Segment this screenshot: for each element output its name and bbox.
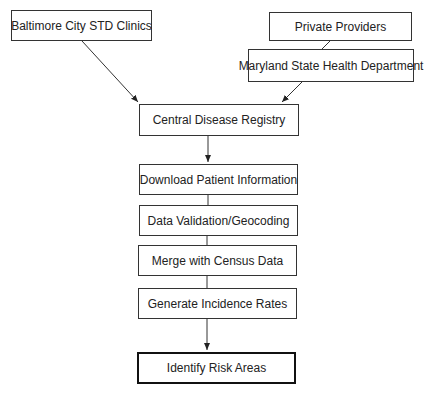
- node-label: Merge with Census Data: [152, 254, 283, 268]
- node-private-providers: Private Providers: [269, 12, 412, 41]
- node-data-validation-geocoding: Data Validation/Geocoding: [139, 205, 298, 236]
- node-label: Generate Incidence Rates: [148, 297, 287, 311]
- node-label: Private Providers: [295, 20, 386, 34]
- node-label: Download Patient Information: [140, 173, 297, 187]
- node-label: Identify Risk Areas: [167, 361, 266, 375]
- node-central-disease-registry: Central Disease Registry: [139, 104, 299, 136]
- node-baltimore-city-std-clinics: Baltimore City STD Clinics: [11, 10, 152, 41]
- node-label: Data Validation/Geocoding: [148, 214, 290, 228]
- node-label: Maryland State Health Department: [239, 59, 424, 73]
- node-label: Central Disease Registry: [153, 113, 286, 127]
- node-merge-with-census-data: Merge with Census Data: [138, 245, 297, 276]
- node-identify-risk-areas: Identify Risk Areas: [137, 352, 296, 384]
- node-maryland-state-health-department: Maryland State Health Department: [248, 49, 414, 82]
- node-label: Baltimore City STD Clinics: [11, 19, 152, 33]
- node-generate-incidence-rates: Generate Incidence Rates: [138, 288, 297, 319]
- node-download-patient-information: Download Patient Information: [139, 164, 298, 195]
